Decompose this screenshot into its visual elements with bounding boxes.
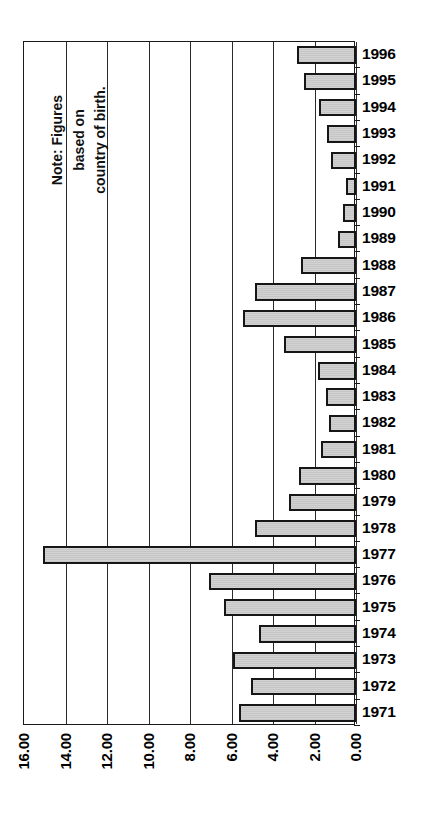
category-label-1990: 1990 — [362, 204, 420, 220]
bar-1994 — [319, 99, 356, 116]
value-tick-label: 10.00 — [139, 733, 156, 770]
bar-1978 — [255, 520, 356, 537]
bar-row — [24, 252, 354, 278]
bar-row — [24, 200, 354, 226]
axis-tick — [354, 251, 360, 252]
axis-tick — [354, 67, 360, 68]
bar-row — [24, 384, 354, 410]
bar-1985 — [284, 336, 356, 353]
bar-row — [24, 437, 354, 463]
axis-tick — [354, 699, 360, 700]
bar-row — [24, 95, 354, 121]
category-label-1984: 1984 — [362, 362, 420, 378]
bar-1975 — [224, 599, 356, 616]
bar-row — [24, 700, 354, 726]
value-tick-label: 8.00 — [181, 733, 198, 761]
bar-row — [24, 568, 354, 594]
axis-tick — [354, 278, 360, 279]
bar-row — [24, 147, 354, 173]
category-label-1987: 1987 — [362, 283, 420, 299]
category-label-1974: 1974 — [362, 625, 420, 641]
bar-1992 — [331, 152, 356, 169]
bar-1991 — [346, 178, 356, 195]
axis-tick — [354, 488, 360, 489]
bar-row — [24, 673, 354, 699]
axis-tick — [354, 515, 360, 516]
bar-1982 — [329, 415, 356, 432]
axis-tick — [354, 146, 360, 147]
value-tick-label: 12.00 — [98, 733, 115, 770]
axis-tick — [354, 462, 360, 463]
bar-1983 — [326, 388, 356, 405]
category-label-1988: 1988 — [362, 257, 420, 273]
bar-1993 — [327, 125, 356, 142]
category-label-1975: 1975 — [362, 599, 420, 615]
category-label-1977: 1977 — [362, 546, 420, 562]
value-tick-label: 6.00 — [222, 733, 239, 761]
axis-tick — [354, 94, 360, 95]
bar-1984 — [318, 362, 356, 379]
bar-row — [24, 647, 354, 673]
axis-tick — [354, 409, 360, 410]
category-label-1989: 1989 — [362, 230, 420, 246]
bar-1987 — [255, 283, 356, 300]
bar-row — [24, 358, 354, 384]
axis-tick — [354, 567, 360, 568]
plot-area — [23, 41, 355, 725]
bar-1980 — [299, 467, 356, 484]
category-label-1979: 1979 — [362, 493, 420, 509]
bar-1972 — [251, 678, 356, 695]
value-tick-label: 16.00 — [15, 733, 32, 770]
bar-row — [24, 489, 354, 515]
category-label-1971: 1971 — [362, 704, 420, 720]
axis-tick — [354, 173, 360, 174]
bar-1995 — [304, 73, 356, 90]
bar-1996 — [297, 46, 356, 63]
bar-1989 — [338, 231, 356, 248]
bar-row — [24, 42, 354, 68]
value-tick-label: 4.00 — [264, 733, 281, 761]
category-label-1982: 1982 — [362, 414, 420, 430]
bar-row — [24, 226, 354, 252]
axis-tick — [354, 620, 360, 621]
bar-row — [24, 410, 354, 436]
category-label-1993: 1993 — [362, 125, 420, 141]
bar-row — [24, 279, 354, 305]
bar-row — [24, 594, 354, 620]
bar-1973 — [233, 652, 356, 669]
category-label-1992: 1992 — [362, 151, 420, 167]
bar-chart: Note: Figures based on country of birth.… — [0, 0, 424, 814]
bar-row — [24, 621, 354, 647]
axis-tick — [354, 593, 360, 594]
axis-tick — [354, 383, 360, 384]
category-label-1980: 1980 — [362, 467, 420, 483]
category-label-1978: 1978 — [362, 520, 420, 536]
bar-1977 — [43, 546, 356, 563]
category-label-1973: 1973 — [362, 651, 420, 667]
axis-tick — [354, 225, 360, 226]
value-tick-label: 2.00 — [305, 733, 322, 761]
bar-1990 — [343, 204, 356, 221]
bar-row — [24, 121, 354, 147]
category-label-1976: 1976 — [362, 572, 420, 588]
bar-row — [24, 331, 354, 357]
bar-row — [24, 463, 354, 489]
axis-tick — [354, 646, 360, 647]
bar-row — [24, 516, 354, 542]
bar-row — [24, 542, 354, 568]
bar-1986 — [243, 310, 356, 327]
bar-1971 — [239, 704, 356, 721]
bar-row — [24, 174, 354, 200]
value-axis-labels: 16.0014.0012.0010.008.006.004.002.000.00 — [0, 727, 424, 814]
category-label-1991: 1991 — [362, 178, 420, 194]
bar-row — [24, 305, 354, 331]
axis-tick — [354, 120, 360, 121]
axis-tick — [354, 330, 360, 331]
axis-tick — [354, 199, 360, 200]
axis-tick — [354, 357, 360, 358]
category-label-1994: 1994 — [362, 99, 420, 115]
axis-tick — [354, 672, 360, 673]
value-tick-label: 0.00 — [347, 733, 364, 761]
axis-tick — [354, 541, 360, 542]
bar-1988 — [301, 257, 356, 274]
